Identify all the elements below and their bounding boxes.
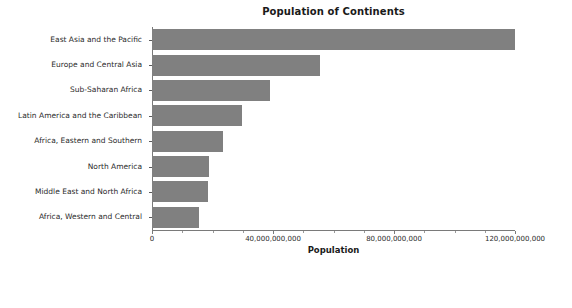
x-axis-minor-tick: [213, 231, 214, 233]
x-axis-tick-label: 40,000,000,000: [245, 235, 301, 243]
bar: [152, 181, 208, 202]
x-axis-minor-tick: [303, 231, 304, 233]
y-axis-tick-mark: [149, 65, 153, 66]
x-axis-tick-label: 120,000,000,000: [485, 235, 545, 243]
y-axis-tick-label: Africa, Western and Central: [0, 212, 142, 221]
y-axis-tick-mark: [149, 167, 153, 168]
y-axis-tick-mark: [149, 217, 153, 218]
bar-row: [152, 205, 515, 230]
x-axis-tick-label: 0: [150, 235, 154, 243]
x-axis-minor-tick: [334, 231, 335, 233]
y-axis-tick-mark: [149, 40, 153, 41]
chart-figure: Population of Continents East Asia and t…: [0, 0, 572, 268]
x-axis-tick-mark: [273, 231, 274, 234]
y-axis-tick-label: Latin America and the Caribbean: [0, 111, 142, 120]
x-axis-minor-tick: [424, 231, 425, 233]
x-axis-tick-mark: [394, 231, 395, 234]
y-axis-tick-mark: [149, 192, 153, 193]
bar-row: [152, 27, 515, 52]
y-axis-tick-label: North America: [0, 162, 142, 171]
bar-row: [152, 129, 515, 154]
x-axis-tick-label: 80,000,000,000: [366, 235, 422, 243]
x-axis-minor-tick: [182, 231, 183, 233]
y-axis-tick-label: Middle East and North Africa: [0, 187, 142, 196]
bar: [152, 55, 320, 76]
y-axis-tick-mark: [149, 90, 153, 91]
bar: [152, 80, 270, 101]
bar-row: [152, 179, 515, 204]
chart-title: Population of Continents: [152, 6, 515, 17]
bar-row: [152, 154, 515, 179]
select-year-slider-widget[interactable]: Select_Year: [0, 268, 572, 308]
y-axis-tick-label: East Asia and the Pacific: [0, 35, 142, 44]
bar: [152, 131, 223, 152]
bar: [152, 156, 209, 177]
bar: [152, 105, 242, 126]
y-axis-tick-label: Sub-Saharan Africa: [0, 85, 142, 94]
bar-row: [152, 103, 515, 128]
plot-area: [152, 27, 515, 230]
bar: [152, 207, 199, 228]
y-axis-tick-label: Africa, Eastern and Southern: [0, 136, 142, 145]
x-axis-minor-tick: [485, 231, 486, 233]
bar-row: [152, 78, 515, 103]
y-axis-tick-mark: [149, 116, 153, 117]
x-axis-minor-tick: [364, 231, 365, 233]
x-axis-tick-mark: [152, 231, 153, 234]
x-axis-title: Population: [152, 245, 515, 255]
bar: [152, 29, 515, 50]
y-axis-tick-mark: [149, 141, 153, 142]
bar-row: [152, 52, 515, 77]
y-axis-tick-label: Europe and Central Asia: [0, 60, 142, 69]
x-axis-minor-tick: [243, 231, 244, 233]
x-axis-minor-tick: [455, 231, 456, 233]
x-axis-tick-mark: [515, 231, 516, 234]
